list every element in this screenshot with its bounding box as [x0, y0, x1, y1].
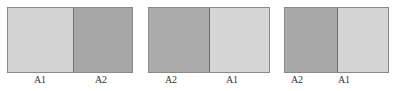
panel-2-cell-a2 — [149, 8, 209, 72]
panel-1-label-1: A1 — [34, 74, 46, 85]
panel-3-label-2: A1 — [338, 74, 350, 85]
panel-1-label-2: A2 — [95, 74, 107, 85]
panel-2-cell-a1 — [209, 8, 269, 72]
panel-3-label-1: A2 — [291, 74, 303, 85]
panel-1-cell-a2 — [73, 8, 132, 72]
panel-3 — [284, 7, 389, 73]
panel-2-label-2: A1 — [226, 74, 238, 85]
panel-1-cell-a1 — [8, 8, 73, 72]
panel-2-label-1: A2 — [165, 74, 177, 85]
panel-1 — [7, 7, 133, 73]
panel-3-cell-a1 — [337, 8, 388, 72]
panel-2 — [148, 7, 270, 73]
panel-3-cell-a2 — [285, 8, 337, 72]
